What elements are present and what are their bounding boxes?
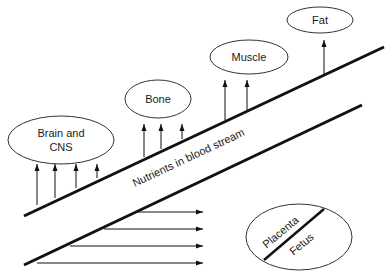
brain-label-line1: Brain and bbox=[37, 127, 84, 139]
muscle-label: Muscle bbox=[232, 51, 267, 63]
tissue-brain-cns: Brain and CNS bbox=[8, 116, 114, 205]
nutrient-flow-diagram: Nutrients in blood stream Brain and CNS … bbox=[0, 0, 392, 275]
tissue-muscle: Muscle bbox=[210, 40, 288, 120]
bone-label: Bone bbox=[145, 93, 171, 105]
brain-ellipse bbox=[8, 116, 114, 164]
brain-label-line2: CNS bbox=[49, 141, 72, 153]
placenta-fetus: Placenta Fetus bbox=[246, 204, 352, 270]
fetus-label: Fetus bbox=[287, 230, 316, 257]
blood-stream-channel: Nutrients in blood stream bbox=[24, 47, 384, 265]
fat-label: Fat bbox=[312, 14, 328, 26]
tissue-bone: Bone bbox=[125, 80, 191, 157]
